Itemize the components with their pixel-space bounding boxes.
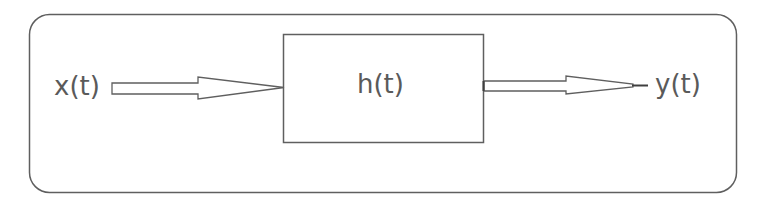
input-arrow [112,77,284,99]
block-diagram [0,0,763,203]
system-label: h(t) [357,69,404,99]
output-signal-label: y(t) [655,69,701,99]
input-signal-label: x(t) [54,71,100,101]
output-arrow [484,76,633,94]
outer-frame [30,15,737,193]
